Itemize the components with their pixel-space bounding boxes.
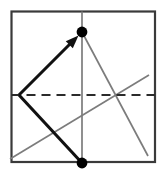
reference-point-top: [77, 27, 88, 38]
origami-figure: [0, 0, 163, 175]
fold-arrow-shaft: [19, 43, 71, 95]
crease-from-top-dot-descending: [82, 32, 148, 156]
reference-point-bottom: [77, 158, 88, 169]
flap-lower-edge: [19, 95, 82, 163]
figure-canvas: [0, 0, 163, 175]
